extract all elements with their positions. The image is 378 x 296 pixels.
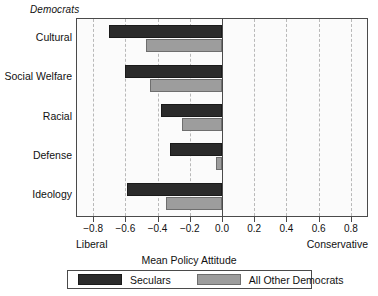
category-label-cultural: Cultural	[0, 31, 72, 43]
tick-mark	[319, 217, 320, 222]
tick-mark	[254, 217, 255, 222]
group-title: Democrats	[30, 4, 79, 15]
tick-label: 0.8	[331, 223, 371, 234]
tick-mark	[190, 217, 191, 222]
category-label-defense: Defense	[0, 149, 72, 161]
axis-anchor-conservative: Conservative	[307, 238, 368, 250]
gridline	[93, 19, 95, 216]
legend-label-all-other-democrats: All Other Democrats	[249, 274, 344, 286]
bar-ideology-all-other-democrats	[166, 197, 222, 210]
gridline	[286, 19, 288, 216]
tick-mark	[93, 217, 94, 222]
category-label-racial: Racial	[0, 110, 72, 122]
tick-mark	[125, 217, 126, 222]
legend-swatch-icon-all-other-democrats	[197, 274, 241, 285]
bar-defense-all-other-democrats	[216, 157, 222, 170]
gridline	[254, 19, 256, 216]
category-label-social-welfare: Social Welfare	[0, 70, 72, 82]
legend-item-seculars: Seculars	[78, 274, 171, 286]
chart-container: Democrats CulturalSocial WelfareRacialDe…	[0, 0, 378, 296]
bar-social-welfare-all-other-democrats	[150, 79, 223, 92]
bar-ideology-seculars	[127, 183, 222, 196]
zero-line	[222, 19, 223, 216]
category-label-ideology: Ideology	[0, 188, 72, 200]
bar-defense-seculars	[170, 143, 222, 156]
bar-social-welfare-seculars	[125, 65, 222, 78]
bar-racial-all-other-democrats	[182, 118, 222, 131]
tick-mark	[158, 217, 159, 222]
legend: Seculars All Other Democrats	[67, 270, 312, 289]
bar-cultural-all-other-democrats	[146, 39, 222, 52]
gridline	[319, 19, 321, 216]
plot-area	[76, 18, 368, 217]
legend-swatch-icon-seculars	[78, 274, 122, 285]
tick-mark	[351, 217, 352, 222]
tick-mark	[222, 217, 223, 222]
tick-mark	[286, 217, 287, 222]
bar-racial-seculars	[161, 104, 222, 117]
legend-label-seculars: Seculars	[130, 274, 171, 286]
gridline	[351, 19, 353, 216]
legend-item-all-other-democrats: All Other Democrats	[197, 274, 344, 286]
bar-cultural-seculars	[109, 25, 222, 38]
axis-anchor-liberal: Liberal	[76, 238, 108, 250]
x-axis-title: Mean Policy Attitude	[0, 254, 378, 266]
